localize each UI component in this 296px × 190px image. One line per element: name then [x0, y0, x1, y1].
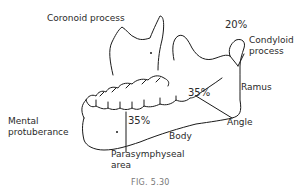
lower-teeth: [86, 96, 196, 110]
label-ramus: Ramus: [241, 82, 272, 93]
angle-division: [196, 96, 232, 118]
sigmoid-notch: [173, 35, 230, 60]
label-condyloid-line1: Condyloid: [249, 35, 294, 46]
upper-teeth: [86, 76, 169, 100]
percent-parasymphyseal: 35%: [128, 115, 150, 126]
label-condyloid-line2: process: [249, 46, 284, 57]
label-mental-line1: Mental: [8, 116, 39, 127]
mental-foramen-dot: [116, 131, 118, 133]
coronoid-dot: [150, 52, 152, 54]
label-coronoid-process: Coronoid process: [47, 13, 125, 24]
coronoid-outline: [110, 16, 164, 75]
percent-condyle: 20%: [225, 19, 247, 30]
mandible-diagram: [0, 0, 296, 190]
label-mental-line2: protuberance: [8, 127, 69, 138]
figure-caption: FIG. 5.30: [131, 178, 170, 187]
label-parasymphyseal-line2: area: [111, 160, 131, 171]
label-angle: Angle: [227, 117, 253, 128]
label-parasymphyseal-line1: Parasymphyseal: [111, 149, 185, 160]
percent-angle-body: 35%: [188, 87, 210, 98]
label-body: Body: [169, 131, 192, 142]
